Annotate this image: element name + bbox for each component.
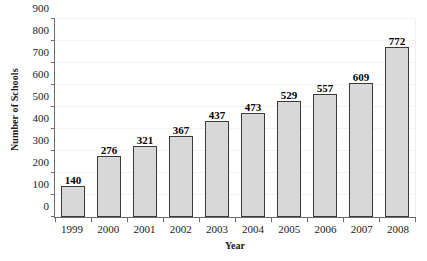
y-axis-tick-label: 400	[33, 113, 50, 124]
y-axis-tick-label: 600	[33, 69, 50, 80]
y-axis-tick-label: 500	[33, 91, 50, 102]
x-axis-tick	[307, 217, 308, 222]
x-axis-tick	[91, 217, 92, 222]
bar-value-label: 140	[65, 175, 82, 186]
bar-value-label: 529	[281, 90, 298, 101]
x-axis-tick	[271, 217, 272, 222]
bar[interactable]: 772	[385, 47, 408, 217]
bar-value-label: 367	[173, 125, 190, 136]
x-axis-tick-label: 2000	[90, 224, 126, 235]
bar[interactable]: 367	[169, 136, 192, 217]
x-axis-tick-label: 2002	[163, 224, 199, 235]
bar-cell: 772	[379, 19, 415, 217]
bar-cell: 367	[163, 19, 199, 217]
y-axis-title: Number of Schools	[6, 30, 22, 190]
bar-value-label: 437	[209, 110, 226, 121]
x-axis-tick-label: 2007	[344, 224, 380, 235]
bar[interactable]: 609	[349, 83, 372, 217]
bar[interactable]: 529	[277, 101, 300, 217]
y-axis-tick-label: 800	[33, 25, 50, 36]
bar[interactable]: 321	[133, 146, 156, 217]
x-axis-tick	[379, 217, 380, 222]
x-axis-tick	[163, 217, 164, 222]
x-axis-tick	[127, 217, 128, 222]
x-axis-tick-label: 2003	[199, 224, 235, 235]
cutoff-title-remnant	[0, 0, 427, 5]
bar-cell: 437	[199, 19, 235, 217]
x-axis-ticks	[55, 217, 415, 222]
x-axis-tick-label: 2005	[271, 224, 307, 235]
x-axis-tick-label: 2001	[126, 224, 162, 235]
bar-cell: 276	[91, 19, 127, 217]
x-axis-tick-label: 2008	[380, 224, 416, 235]
plot-area: 0100200300400500600700800900 14027632136…	[54, 18, 416, 218]
y-axis-tick-label: 100	[33, 179, 50, 190]
bar[interactable]: 276	[97, 156, 120, 217]
y-axis-tick-label: 200	[33, 157, 50, 168]
bar-cell: 140	[55, 19, 91, 217]
bar[interactable]: 473	[241, 113, 264, 217]
bar-value-label: 609	[353, 72, 370, 83]
bar[interactable]: 437	[205, 121, 228, 217]
x-axis-tick	[55, 217, 56, 222]
y-axis-tick-label: 700	[33, 47, 50, 58]
x-axis-labels: 1999200020012002200320042005200620072008	[54, 224, 416, 235]
x-axis-tick-label: 2006	[307, 224, 343, 235]
bar-cell: 557	[307, 19, 343, 217]
x-axis-title: Year	[54, 241, 416, 251]
x-axis-tick	[415, 217, 416, 222]
bar[interactable]: 557	[313, 94, 336, 217]
y-axis-tick-label: 0	[44, 201, 50, 212]
x-axis-tick	[343, 217, 344, 222]
bar-cell: 609	[343, 19, 379, 217]
bar-value-label: 557	[317, 83, 334, 94]
bar[interactable]: 140	[61, 186, 84, 217]
x-axis-tick-label: 1999	[54, 224, 90, 235]
bar-value-label: 473	[245, 102, 262, 113]
x-axis-tick-label: 2004	[235, 224, 271, 235]
x-axis-tick	[199, 217, 200, 222]
bar-cell: 321	[127, 19, 163, 217]
bar-value-label: 772	[389, 36, 406, 47]
y-axis-tick-label: 300	[33, 135, 50, 146]
x-axis-tick	[235, 217, 236, 222]
bar-chart: Number of Schools 0100200300400500600700…	[0, 0, 427, 261]
bar-series: 140276321367437473529557609772	[55, 19, 415, 217]
bar-value-label: 276	[101, 145, 118, 156]
bar-cell: 529	[271, 19, 307, 217]
bar-value-label: 321	[137, 135, 154, 146]
bar-cell: 473	[235, 19, 271, 217]
